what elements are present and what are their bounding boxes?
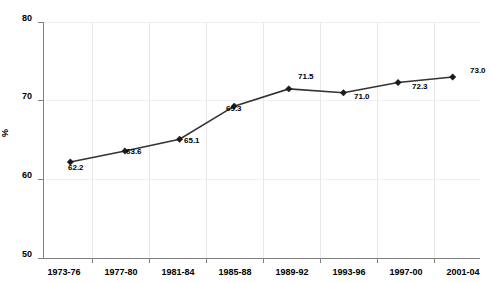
point-label-1997-00: 72.3 xyxy=(412,82,428,91)
data-point-2001-04 xyxy=(449,74,455,80)
ytick-label-70: 70 xyxy=(6,91,32,101)
point-label-1973-76: 62.2 xyxy=(68,163,84,172)
xtick-label-1989-92: 1989-92 xyxy=(262,267,322,277)
point-label-1981-84: 65.1 xyxy=(184,136,200,145)
xtick-label-1993-96: 1993-96 xyxy=(319,267,379,277)
xtick-label-1985-88: 1985-88 xyxy=(205,267,265,277)
data-point-1993-96 xyxy=(340,90,346,96)
point-label-1977-80: 63.6 xyxy=(126,147,142,156)
point-label-2001-04: 73.0 xyxy=(470,66,486,75)
xtick-label-1977-80: 1977-80 xyxy=(91,267,151,277)
xtick-label-2001-04: 2001-04 xyxy=(433,267,492,277)
point-label-1993-96: 71.0 xyxy=(354,92,370,101)
xtick-label-1973-76: 1973-76 xyxy=(34,267,94,277)
ytick-label-50: 50 xyxy=(6,249,32,259)
data-point-1989-92 xyxy=(286,86,292,92)
point-label-1989-92: 71.5 xyxy=(298,72,314,81)
line-chart: % 80 70 60 50 1 xyxy=(0,0,492,283)
ytick-label-60: 60 xyxy=(6,170,32,180)
xtick-label-1997-00: 1997-00 xyxy=(376,267,436,277)
data-point-1997-00 xyxy=(395,79,401,85)
point-label-1985-88: 69.3 xyxy=(226,104,242,113)
ytick-label-80: 80 xyxy=(6,13,32,23)
plot-area xyxy=(0,0,492,283)
xtick-label-1981-84: 1981-84 xyxy=(148,267,208,277)
